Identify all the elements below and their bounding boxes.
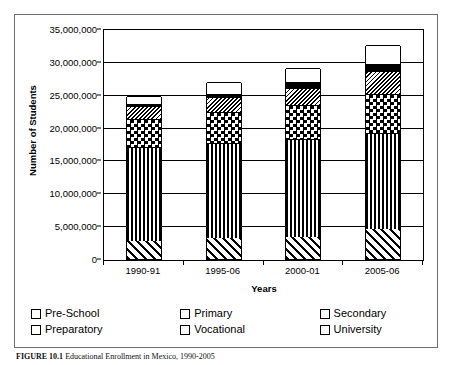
bar-segment-primary[interactable] xyxy=(127,147,161,242)
legend-entry-pre-school[interactable]: Pre-School xyxy=(31,307,180,320)
legend-column: Pre-SchoolPreparatory xyxy=(31,307,180,347)
chart-plot-wrapper: Number of Students 05,000,00010,000,0001… xyxy=(15,15,439,305)
x-axis-tick-mark xyxy=(183,261,184,265)
bar-segment-vocational[interactable] xyxy=(127,104,161,106)
bar-group xyxy=(126,30,162,260)
legend-entry-secondary[interactable]: Secondary xyxy=(320,307,439,320)
legend-column: PrimaryVocational xyxy=(180,307,319,347)
bar-group xyxy=(206,30,242,260)
diagonal-stripe-forward-icon xyxy=(31,309,41,319)
vertical-stripe-icon xyxy=(180,309,190,319)
y-axis-tick-label: 25,000,000 xyxy=(49,89,97,100)
figure-border-box: Number of Students 05,000,00010,000,0001… xyxy=(14,14,438,348)
plot-area xyxy=(103,29,424,261)
bar-segment-pre-school[interactable] xyxy=(207,238,241,259)
y-axis-tick-mark xyxy=(97,259,101,260)
bar-segment-secondary[interactable] xyxy=(366,94,400,133)
legend-label: Pre-School xyxy=(45,307,99,320)
stacked-bar[interactable] xyxy=(206,83,242,260)
solid-black-icon xyxy=(180,325,190,335)
x-axis-tick-mark xyxy=(103,261,104,265)
y-axis-tick-mark xyxy=(97,61,101,62)
y-axis-tick-label: 10,000,000 xyxy=(49,188,97,199)
y-axis-tick-mark xyxy=(97,127,101,128)
legend-entry-vocational[interactable]: Vocational xyxy=(180,323,319,336)
figure-caption: FIGURE 10.1 Educational Enrollment in Me… xyxy=(16,352,215,361)
bar-segment-vocational[interactable] xyxy=(366,64,400,71)
x-axis-title: Years xyxy=(103,283,425,294)
legend-label: Vocational xyxy=(194,323,245,336)
bar-segment-university[interactable] xyxy=(366,45,400,63)
figure-caption-label: FIGURE 10.1 xyxy=(16,352,63,361)
bar-segment-preparatory[interactable] xyxy=(366,71,400,94)
stacked-bar[interactable] xyxy=(285,69,321,260)
x-axis-tick-label: 1995-06 xyxy=(205,265,240,276)
y-axis-tick-label: 35,000,000 xyxy=(49,24,97,35)
bar-segment-primary[interactable] xyxy=(286,139,320,236)
bar-group xyxy=(365,30,401,260)
chart-legend: Pre-SchoolPreparatoryPrimaryVocationalSe… xyxy=(15,307,439,347)
bar-segment-secondary[interactable] xyxy=(286,105,320,140)
figure-root: Number of Students 05,000,00010,000,0001… xyxy=(0,0,453,365)
stacked-bar[interactable] xyxy=(365,46,401,260)
bar-segment-preparatory[interactable] xyxy=(127,106,161,119)
legend-label: Preparatory xyxy=(45,323,102,336)
legend-entry-preparatory[interactable]: Preparatory xyxy=(31,323,180,336)
figure-caption-text: Educational Enrollment in Mexico, 1990-2… xyxy=(65,352,215,361)
x-axis-tick-mark xyxy=(342,261,343,265)
bar-segment-vocational[interactable] xyxy=(207,94,241,97)
legend-label: University xyxy=(334,323,382,336)
y-axis-tick-label: 15,000,000 xyxy=(49,155,97,166)
bar-segment-university[interactable] xyxy=(207,82,241,94)
bar-segment-pre-school[interactable] xyxy=(366,229,400,259)
bar-segment-pre-school[interactable] xyxy=(127,241,161,259)
y-axis-tick-mark xyxy=(97,226,101,227)
x-axis-tick-label: 1990-91 xyxy=(125,265,160,276)
x-axis-tick-labels: 1990-911995-062000-012005-06 xyxy=(103,261,425,279)
x-axis-tick-mark xyxy=(263,261,264,265)
y-axis-tick-labels: 05,000,00010,000,00015,000,00020,000,000… xyxy=(27,15,101,275)
y-axis-tick-mark xyxy=(97,94,101,95)
y-axis-tick-label: 5,000,000 xyxy=(55,221,97,232)
x-axis-tick-mark xyxy=(422,261,423,265)
bar-segment-primary[interactable] xyxy=(207,143,241,238)
checkerboard-icon xyxy=(320,309,330,319)
y-axis-tick-mark xyxy=(97,160,101,161)
bar-segment-secondary[interactable] xyxy=(127,119,161,147)
legend-entry-university[interactable]: University xyxy=(320,323,439,336)
bar-segment-university[interactable] xyxy=(286,68,320,82)
legend-column: SecondaryUniversity xyxy=(320,307,439,347)
bar-group xyxy=(285,30,321,260)
bar-segment-vocational[interactable] xyxy=(286,82,320,88)
legend-label: Secondary xyxy=(334,307,387,320)
bars-layer xyxy=(104,30,423,260)
x-axis-tick-label: 2000-01 xyxy=(285,265,320,276)
bar-segment-pre-school[interactable] xyxy=(286,237,320,259)
stacked-bar[interactable] xyxy=(126,97,162,260)
legend-entry-primary[interactable]: Primary xyxy=(180,307,319,320)
bar-segment-secondary[interactable] xyxy=(207,112,241,143)
bar-segment-university[interactable] xyxy=(127,96,161,104)
bar-segment-primary[interactable] xyxy=(366,133,400,230)
fine-diagonal-hatch-icon xyxy=(31,325,41,335)
white-open-icon xyxy=(320,325,330,335)
y-axis-tick-mark xyxy=(97,29,101,30)
x-axis-tick-label: 2005-06 xyxy=(365,265,400,276)
y-axis-tick-label: 20,000,000 xyxy=(49,122,97,133)
y-axis-tick-label: 30,000,000 xyxy=(49,56,97,67)
bar-segment-preparatory[interactable] xyxy=(286,88,320,105)
y-axis-tick-mark xyxy=(97,193,101,194)
bar-segment-preparatory[interactable] xyxy=(207,97,241,112)
legend-label: Primary xyxy=(194,307,232,320)
